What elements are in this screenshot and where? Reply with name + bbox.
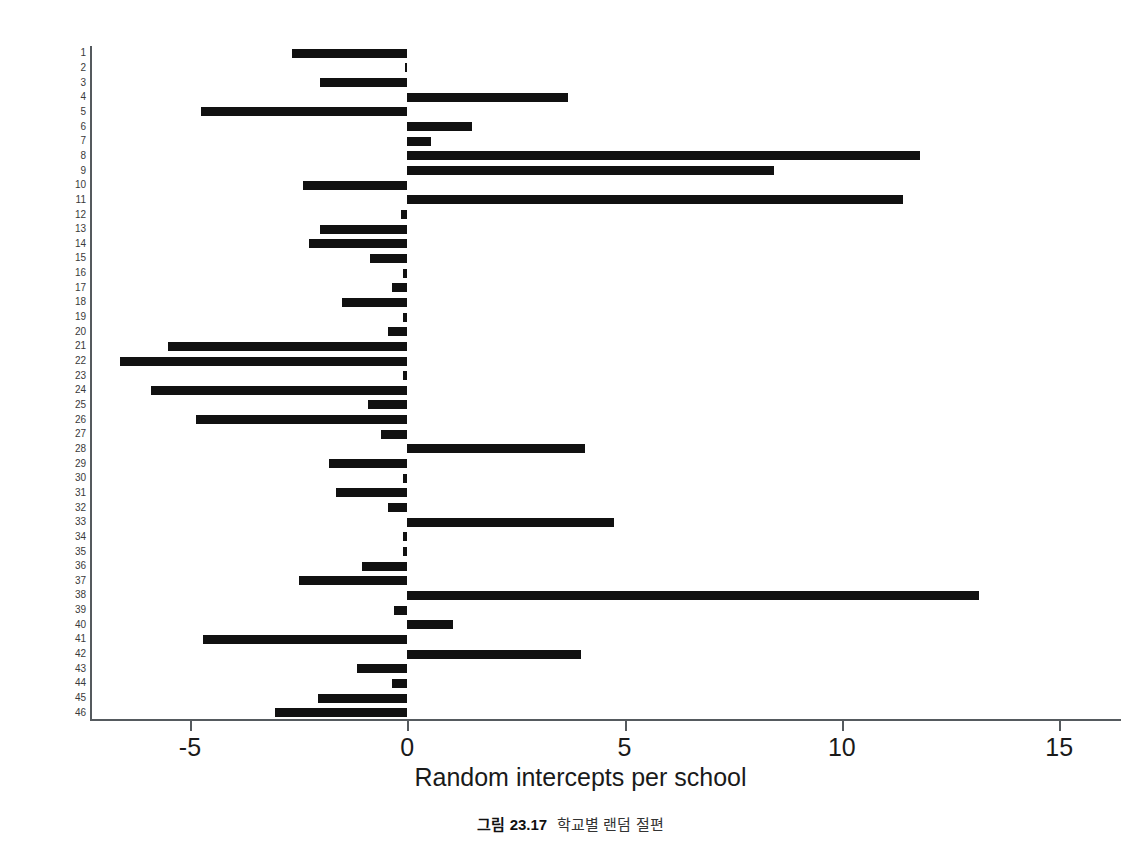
- bar: [203, 635, 407, 644]
- bar: [303, 181, 407, 190]
- bar: [292, 49, 407, 58]
- bar: [168, 342, 407, 351]
- y-axis-tick-label: 36: [75, 561, 86, 571]
- y-axis-tick-label: 28: [75, 444, 86, 454]
- x-axis-tick-mark: [190, 721, 192, 731]
- bar: [407, 137, 431, 146]
- bar: [201, 107, 407, 116]
- bar: [299, 576, 408, 585]
- y-axis-tick-label: 42: [75, 649, 86, 659]
- bar: [388, 327, 408, 336]
- bar: [392, 283, 407, 292]
- bar: [403, 371, 407, 380]
- y-axis-tick-label: 46: [75, 708, 86, 718]
- bar: [407, 122, 472, 131]
- y-axis-tick-label: 34: [75, 532, 86, 542]
- y-axis-tick-label: 32: [75, 503, 86, 513]
- y-axis-tick-label: 7: [80, 136, 86, 146]
- bar: [275, 708, 408, 717]
- y-axis-tick-label: 3: [80, 78, 86, 88]
- caption-text: 학교별 랜덤 절편: [557, 816, 663, 833]
- figure-container: 1234567891011121314151617181920212223242…: [0, 0, 1141, 868]
- bar: [318, 694, 407, 703]
- bar: [394, 606, 407, 615]
- y-axis-tick-label: 19: [75, 312, 86, 322]
- y-axis-tick-label: 39: [75, 605, 86, 615]
- caption-number: 그림 23.17: [477, 816, 547, 833]
- y-axis-tick-label: 33: [75, 517, 86, 527]
- y-axis-tick-label: 13: [75, 224, 86, 234]
- bar: [403, 474, 407, 483]
- y-axis-tick-label: 9: [80, 166, 86, 176]
- bar: [151, 386, 407, 395]
- bar: [407, 166, 774, 175]
- bar: [388, 503, 408, 512]
- bar: [407, 518, 613, 527]
- bar: [407, 591, 978, 600]
- y-axis-tick-label: 18: [75, 297, 86, 307]
- y-axis-tick-label: 24: [75, 385, 86, 395]
- bar: [407, 444, 585, 453]
- bar-series: [90, 46, 1120, 720]
- y-axis-tick-label: 43: [75, 664, 86, 674]
- y-axis-tick-label: 11: [76, 195, 86, 205]
- bar: [309, 239, 407, 248]
- x-axis-tick-mark: [407, 721, 409, 731]
- y-axis-tick-label: 26: [75, 415, 86, 425]
- bar: [407, 650, 581, 659]
- bar: [403, 547, 407, 556]
- bar: [407, 151, 920, 160]
- y-axis-tick-label: 12: [75, 210, 86, 220]
- y-axis-tick-label: 40: [75, 620, 86, 630]
- bar: [320, 225, 407, 234]
- y-axis-tick-label: 31: [75, 488, 86, 498]
- bar: [336, 488, 408, 497]
- y-axis-tick-label: 25: [75, 400, 86, 410]
- y-axis-tick-label: 30: [75, 473, 86, 483]
- bar: [403, 532, 407, 541]
- figure-caption: 그림 23.17학교별 랜덤 절편: [0, 815, 1141, 835]
- bar: [401, 210, 408, 219]
- bar: [407, 195, 902, 204]
- y-axis-tick-label: 23: [75, 371, 86, 381]
- y-axis-tick-label: 14: [75, 239, 86, 249]
- x-axis-tick-label: 15: [1045, 733, 1073, 761]
- y-axis-tick-label: 22: [75, 356, 86, 366]
- x-axis-tick-mark: [842, 721, 844, 731]
- y-axis-tick-label: 27: [75, 429, 86, 439]
- y-axis-tick-label: 4: [80, 92, 86, 102]
- y-axis-tick-label: 5: [80, 107, 86, 117]
- y-axis-tick-label: 29: [75, 459, 86, 469]
- y-axis-tick-label: 15: [75, 253, 86, 263]
- y-axis-tick-label: 37: [75, 576, 86, 586]
- bar: [368, 400, 407, 409]
- y-axis-tick-label: 45: [75, 693, 86, 703]
- x-axis-tick-label: 5: [618, 733, 632, 761]
- y-axis-tick-label: 38: [75, 590, 86, 600]
- bar: [392, 679, 407, 688]
- y-axis-tick-label: 6: [80, 122, 86, 132]
- y-axis-tick-label: 10: [75, 180, 86, 190]
- x-axis-title: Random intercepts per school: [0, 762, 1141, 792]
- x-axis-tick-mark: [1059, 721, 1061, 731]
- y-axis-tick-label: 20: [75, 327, 86, 337]
- bar: [342, 298, 407, 307]
- y-axis-tick-label: 35: [75, 547, 86, 557]
- bar: [407, 620, 453, 629]
- bar: [370, 254, 407, 263]
- bar: [381, 430, 407, 439]
- bar: [407, 93, 568, 102]
- x-axis-title-label: Random intercepts per school: [414, 763, 746, 791]
- x-axis-tick-label: 10: [828, 733, 856, 761]
- bar: [357, 664, 407, 673]
- x-axis-tick-mark: [625, 721, 627, 731]
- y-axis-tick-label: 17: [75, 283, 86, 293]
- x-axis-tick-label: -5: [179, 733, 201, 761]
- y-axis-tick-labels: 1234567891011121314151617181920212223242…: [56, 46, 86, 720]
- bar: [196, 415, 407, 424]
- x-axis-tick-label: 0: [400, 733, 414, 761]
- y-axis-tick-label: 44: [75, 678, 86, 688]
- y-axis-tick-label: 21: [75, 341, 86, 351]
- bar: [120, 357, 407, 366]
- y-axis-tick-label: 1: [80, 48, 86, 58]
